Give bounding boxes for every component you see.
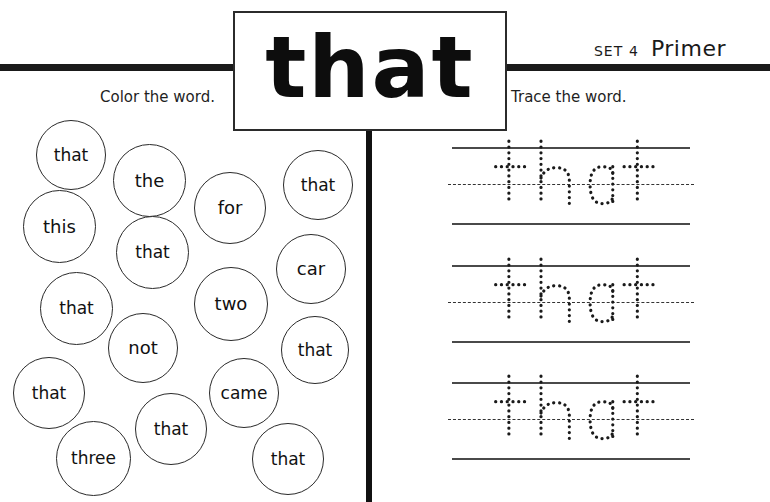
title-word-box: that — [233, 11, 507, 131]
trace-row[interactable] — [452, 265, 690, 343]
set-level: Primer — [651, 36, 726, 61]
dotted-trace-word — [490, 133, 660, 225]
dotted-trace-word — [490, 251, 660, 343]
set-number: 4 — [629, 43, 639, 59]
instruction-trace: Trace the word. — [511, 88, 627, 106]
word-bubble[interactable]: came — [209, 358, 279, 428]
panel-divider — [366, 131, 372, 502]
word-bubble[interactable]: two — [194, 267, 268, 341]
word-bubble[interactable]: car — [276, 234, 346, 304]
word-bubble[interactable]: that — [283, 150, 353, 220]
set-label: SET 4 Primer — [594, 36, 726, 61]
set-prefix: SET — [594, 43, 623, 59]
word-bubble[interactable]: that — [252, 423, 324, 495]
word-bubble[interactable]: this — [23, 190, 96, 263]
word-bubble[interactable]: that — [13, 357, 85, 429]
word-bubble[interactable]: that — [281, 316, 349, 384]
trace-row[interactable] — [452, 147, 690, 225]
word-bubble[interactable]: that — [40, 272, 113, 345]
word-bubble[interactable]: that — [36, 120, 106, 190]
dotted-trace-word — [490, 368, 660, 460]
instruction-color: Color the word. — [100, 88, 215, 106]
trace-row[interactable] — [452, 382, 690, 460]
word-bubble[interactable]: three — [56, 421, 131, 496]
word-bubble[interactable]: the — [113, 144, 186, 217]
word-bubble[interactable]: not — [108, 313, 178, 383]
title-word: that — [235, 13, 505, 129]
word-bubble[interactable]: that — [116, 216, 189, 289]
word-bubble[interactable]: that — [135, 393, 207, 465]
word-bubble[interactable]: for — [194, 172, 266, 244]
worksheet-page: that SET 4 Primer Color the word. Trace … — [0, 0, 770, 502]
